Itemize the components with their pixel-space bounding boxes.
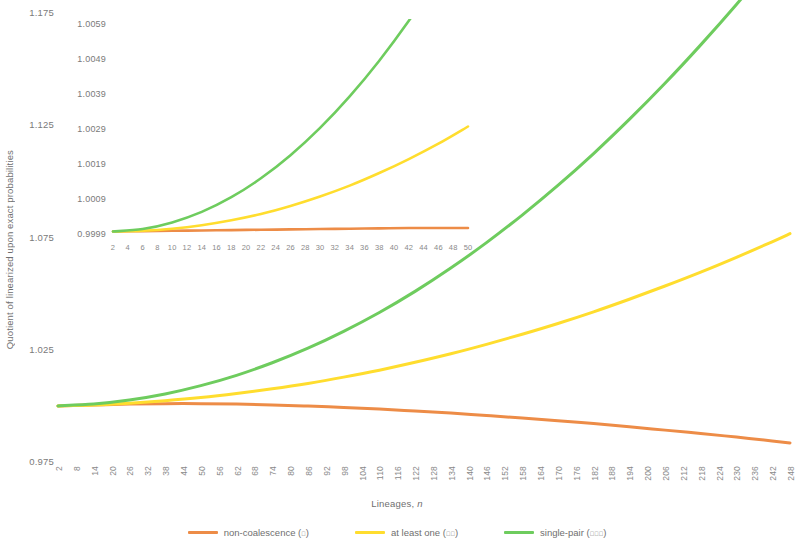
inset-x-tick: 40 (387, 243, 401, 252)
inset-x-tick: 30 (313, 243, 327, 252)
inset-x-tick: 38 (372, 243, 386, 252)
inset-x-tick: 32 (328, 243, 342, 252)
main-x-tick: 146 (482, 466, 492, 481)
main-x-tick: 230 (732, 466, 742, 481)
main-x-tick: 104 (358, 466, 368, 481)
main-y-tick: 0.975 (8, 456, 54, 467)
inset-y-tick: 1.0059 (62, 19, 106, 29)
legend-item-single-pair[interactable]: single-pair (ɪɪɪ) (504, 527, 606, 538)
inset-x-tick: 22 (254, 243, 268, 252)
legend-roman-non-coalescence: ɪ (301, 528, 306, 538)
legend-item-non-coalescence[interactable]: non-coalescence (ɪ) (188, 527, 309, 538)
legend-item-at-least-one[interactable]: at least one (ɪɪ) (355, 527, 458, 538)
main-x-tick: 68 (250, 466, 260, 476)
inset-x-tick: 4 (121, 243, 135, 252)
main-x-tick: 122 (411, 466, 421, 481)
chart-legend: non-coalescence (ɪ)at least one (ɪɪ)sing… (0, 527, 794, 538)
series-line-single-pair (58, 0, 790, 406)
main-x-tick: 80 (286, 466, 296, 476)
series-line-at (113, 127, 468, 232)
inset-x-tick: 16 (210, 243, 224, 252)
inset-y-tick: 1.0039 (62, 89, 106, 99)
legend-swatch-single-pair (504, 531, 534, 534)
main-y-tick: 1.175 (8, 7, 54, 18)
inset-x-tick: 28 (298, 243, 312, 252)
x-axis-title: Lineages, n (0, 498, 794, 509)
legend-label-single-pair: single-pair (ɪɪɪ) (540, 527, 606, 538)
main-x-tick: 140 (465, 466, 475, 481)
main-x-tick: 86 (304, 466, 314, 476)
main-x-tick: 224 (715, 466, 725, 481)
inset-x-tick: 18 (224, 243, 238, 252)
series-line-at (58, 234, 790, 406)
main-x-tick: 152 (500, 466, 510, 481)
inset-x-tick: 10 (165, 243, 179, 252)
inset-x-tick: 2 (106, 243, 120, 252)
legend-roman-at-least-one: ɪɪ (446, 528, 455, 538)
main-x-tick: 14 (90, 466, 100, 476)
inset-x-tick: 34 (343, 243, 357, 252)
inset-x-tick: 50 (461, 243, 475, 252)
series-line-non-coalescence (58, 404, 790, 443)
main-x-tick: 62 (233, 466, 243, 476)
main-x-tick: 50 (197, 466, 207, 476)
main-x-tick: 20 (108, 466, 118, 476)
x-axis-title-symbol: n (417, 498, 422, 509)
main-x-tick: 248 (786, 466, 796, 481)
inset-x-tick: 12 (180, 243, 194, 252)
inset-x-tick: 36 (357, 243, 371, 252)
main-x-tick: 242 (768, 466, 778, 481)
inset-y-tick: 1.0049 (62, 54, 106, 64)
main-x-tick: 128 (429, 466, 439, 481)
main-x-tick: 26 (125, 466, 135, 476)
legend-label-non-coalescence: non-coalescence (ɪ) (224, 527, 309, 538)
main-x-tick: 74 (268, 466, 278, 476)
inset-x-tick: 24 (269, 243, 283, 252)
main-x-tick: 134 (447, 466, 457, 481)
x-axis-title-label: Lineages, (371, 498, 417, 509)
main-y-tick: 1.025 (8, 344, 54, 355)
main-x-tick: 92 (322, 466, 332, 476)
main-x-tick: 38 (161, 466, 171, 476)
inset-x-tick: 26 (284, 243, 298, 252)
inset-x-tick: 42 (402, 243, 416, 252)
main-x-tick: 44 (179, 466, 189, 476)
inset-x-tick: 20 (239, 243, 253, 252)
legend-label-at-least-one: at least one (ɪɪ) (391, 527, 458, 538)
inset-x-tick: 14 (195, 243, 209, 252)
main-x-tick: 200 (643, 466, 653, 481)
main-x-tick: 110 (375, 466, 385, 480)
legend-swatch-at-least-one (355, 531, 385, 534)
main-x-tick: 164 (536, 466, 546, 481)
main-x-tick: 212 (679, 466, 689, 481)
main-x-tick: 170 (554, 466, 564, 481)
inset-y-tick: 1.0019 (62, 159, 106, 169)
inset-y-tick: 1.0029 (62, 124, 106, 134)
main-x-tick: 56 (215, 466, 225, 476)
main-x-tick: 236 (750, 466, 760, 481)
main-y-tick: 1.125 (8, 119, 54, 130)
main-y-tick: 1.075 (8, 232, 54, 243)
main-x-tick: 218 (697, 466, 707, 481)
main-x-tick: 176 (572, 466, 582, 481)
series-line-single-pair (113, 0, 468, 232)
main-x-tick: 8 (72, 466, 82, 471)
inset-x-tick: 48 (446, 243, 460, 252)
main-x-tick: 182 (590, 466, 600, 481)
inset-x-tick: 6 (136, 243, 150, 252)
inset-x-tick: 44 (417, 243, 431, 252)
main-x-tick: 98 (340, 466, 350, 476)
main-x-tick: 32 (143, 466, 153, 476)
main-x-tick: 188 (607, 466, 617, 481)
legend-swatch-non-coalescence (188, 531, 218, 534)
main-x-tick: 158 (518, 466, 528, 481)
inset-x-tick: 8 (150, 243, 164, 252)
inset-y-tick: 0.9999 (62, 229, 106, 239)
main-x-tick: 194 (625, 466, 635, 481)
main-x-tick: 206 (661, 466, 671, 481)
inset-y-tick: 1.0009 (62, 194, 106, 204)
main-x-tick: 116 (393, 466, 403, 480)
legend-roman-single-pair: ɪɪɪ (590, 528, 604, 538)
main-x-tick: 2 (54, 466, 64, 471)
